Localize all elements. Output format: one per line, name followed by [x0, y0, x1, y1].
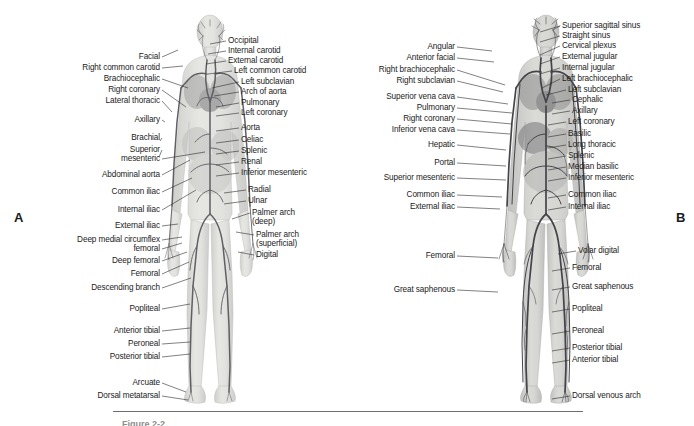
vessel-label: Abdominal aorta — [102, 170, 160, 180]
vessel-label: Posterior tibial — [110, 352, 160, 362]
vessel-label: Great saphenous — [394, 285, 455, 295]
vessel-label: Deep femoral — [112, 256, 160, 266]
vessel-label: Splenic — [568, 151, 594, 161]
vessel-label: External carotid — [228, 56, 283, 66]
figure-caption: Figure 2-2 — [122, 419, 282, 426]
vessel-label: Internal carotid — [228, 46, 281, 56]
vessel-label: Digital — [256, 250, 278, 260]
vessel-label: Internal iliac — [568, 202, 610, 212]
vessel-label: Dorsal venous arch — [572, 391, 641, 401]
vessel-label: mesenteric — [121, 154, 160, 164]
vessel-label: Pulmonary — [241, 98, 279, 108]
vessel-label: Left brachiocephalic — [562, 74, 633, 84]
vessel-label: Popliteal — [572, 304, 603, 314]
vessel-label: Peroneal — [572, 326, 604, 336]
vessel-label: Basilic — [568, 129, 591, 139]
vessel-label: Common iliac — [568, 190, 616, 200]
vessel-label: Long thoracic — [568, 140, 616, 150]
vessel-label: Occipital — [228, 36, 259, 46]
vessel-label: Left common carotid — [234, 66, 306, 76]
vessel-label: Femoral — [131, 269, 160, 279]
vessel-label: Femoral — [426, 251, 455, 261]
vessel-label: Aorta — [241, 123, 260, 133]
vessel-label: Cervical plexus — [562, 41, 616, 51]
vessel-label: Anterior facial — [406, 53, 455, 63]
vessel-label: Radial — [248, 185, 271, 195]
vessel-label: Left coronary — [241, 108, 288, 118]
vessel-label: Left subclavian — [568, 85, 621, 95]
vessel-label: Peroneal — [128, 339, 160, 349]
vessel-label: Brachiocephalic — [104, 74, 160, 84]
vessel-label: (deep) — [252, 217, 275, 227]
vessel-label: Renal — [241, 157, 262, 167]
vessel-label: Cephalic — [572, 95, 603, 105]
vessel-label: Right coronary — [108, 85, 160, 95]
vessel-label: Pulmonary — [417, 103, 455, 113]
panel-b-letter: B — [676, 210, 685, 225]
vessel-label: Angular — [427, 42, 455, 52]
vessel-label: Lateral thoracic — [106, 96, 160, 106]
vessel-label: Right brachiocephalic — [379, 65, 455, 75]
vessel-label: Inferior vena cava — [392, 125, 455, 135]
vessel-label: Common iliac — [112, 187, 160, 197]
vessel-label: Ulnar — [248, 196, 267, 206]
vessel-label: Right subclavian — [397, 76, 455, 86]
vessel-label: Portal — [434, 158, 455, 168]
vessel-label: External iliac — [410, 202, 455, 212]
vessel-label: Superior vena cava — [386, 92, 455, 102]
panel-a-letter: A — [14, 210, 23, 225]
vessel-label: Femoral — [572, 263, 601, 273]
vessel-label: Inferior mesenteric — [241, 168, 307, 178]
vessel-label: Anterior tibial — [114, 326, 160, 336]
vessel-label: Splenic — [241, 146, 267, 156]
vessel-label: Common iliac — [407, 190, 455, 200]
vessel-label: Internal iliac — [118, 205, 160, 215]
vessel-label: Arch of aorta — [241, 87, 287, 97]
vessel-label: Axillary — [134, 115, 160, 125]
vessel-label: Dorsal metatarsal — [98, 391, 160, 401]
vessel-label: Volar digital — [578, 246, 619, 256]
vessel-label: Median basilic — [568, 162, 618, 172]
vessel-label: Inferior mesenteric — [568, 173, 634, 183]
vessel-label: Superior sagittal sinus — [562, 21, 640, 31]
vessel-label: Celiac — [241, 135, 263, 145]
figure-page: A — [0, 0, 694, 426]
vessel-label: femoral — [133, 244, 160, 254]
vessel-label: Facial — [139, 52, 160, 62]
vessel-label: Straight sinus — [562, 31, 610, 41]
panel-venous: B — [347, 0, 694, 426]
vessel-label: Great saphenous — [572, 282, 633, 292]
vessel-label: Posterior tibial — [572, 343, 622, 353]
vessel-label: Left subclavian — [241, 77, 294, 87]
vessel-label: Hepatic — [428, 140, 455, 150]
vessel-label: Brachial — [131, 133, 160, 143]
vessel-label: External jugular — [562, 52, 617, 62]
vessel-label: Internal jugular — [562, 63, 615, 73]
vessel-label: (superficial) — [256, 239, 297, 249]
vessel-label: Superior mesenteric — [384, 173, 455, 183]
vessel-label: Axillary — [572, 106, 598, 116]
footer-rule — [113, 411, 583, 412]
vessel-label: Arcuate — [132, 378, 160, 388]
vessel-label: Left coronary — [568, 117, 615, 127]
vessel-label: External iliac — [115, 221, 160, 231]
vessel-label: Anterior tibial — [572, 355, 618, 365]
vessel-label: Descending branch — [91, 283, 160, 293]
vessel-label: Right coronary — [403, 114, 455, 124]
vessel-label: Popliteal — [129, 304, 160, 314]
vessel-label: Right common carotid — [82, 63, 160, 73]
